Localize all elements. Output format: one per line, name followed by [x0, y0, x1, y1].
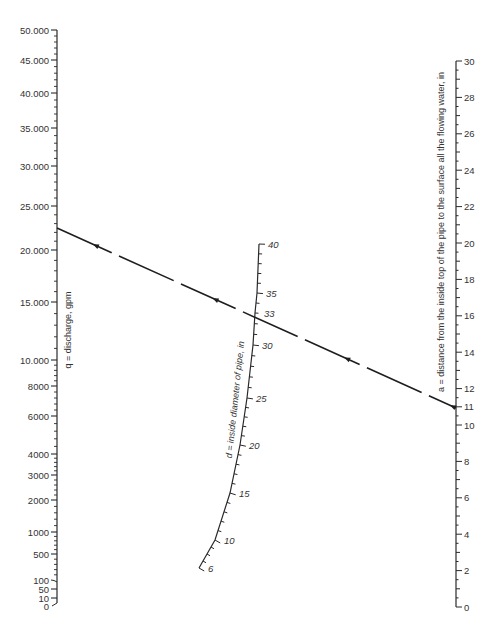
- a-tick-label: 14: [464, 347, 475, 358]
- q-tick-label: 6000: [28, 411, 49, 422]
- d-tick: [211, 547, 214, 549]
- a-tick-label: 16: [464, 310, 475, 321]
- q-tick-label: 35.000: [20, 123, 49, 134]
- q-tick-label: 1000: [28, 527, 49, 538]
- nomograph-svg: 50.00045.00040.00035.00030.00025.00020.0…: [0, 0, 495, 627]
- d-tick: [224, 512, 227, 513]
- q-tick-label: 15.000: [20, 297, 49, 308]
- q-tick-label: 10.000: [20, 355, 49, 366]
- d-tick: [215, 540, 220, 543]
- a-tick-label: 26: [464, 128, 475, 139]
- a-tick-label: 22: [464, 201, 475, 212]
- a-tick-label: 18: [464, 274, 475, 285]
- d-tick: [244, 417, 247, 418]
- q-tick-label: 40.000: [20, 88, 49, 99]
- d-tick: [199, 568, 204, 571]
- d-tick: [207, 554, 210, 556]
- d-tick-label: 20: [248, 440, 260, 451]
- a-tick-label: 11: [464, 401, 474, 412]
- q-tick-label: 0: [44, 601, 49, 612]
- q-tick-label: 20.000: [20, 245, 49, 256]
- solution-dashed-line: [57, 228, 457, 410]
- q-axis-title: q = discharge, gpm: [63, 292, 73, 369]
- q-tick-label: 25.000: [20, 201, 49, 212]
- q-discharge-axis: 50.00045.00040.00035.00030.00025.00020.0…: [20, 25, 73, 612]
- d-tick: [221, 521, 224, 522]
- a-tick-label: 8: [464, 456, 469, 467]
- a-tick-label: 0: [464, 602, 469, 613]
- q-tick-label: 500: [33, 549, 49, 560]
- d-tick-label: 10: [224, 535, 235, 546]
- q-tick-label: 4000: [28, 449, 49, 460]
- nomograph-chart: q = discharge, gpm d = inside diameter o…: [0, 0, 495, 627]
- d-tick: [246, 407, 249, 408]
- a-tick-label: 28: [464, 92, 475, 103]
- d-tick: [247, 398, 253, 399]
- q-tick-label: 3000: [28, 470, 49, 481]
- q-tick-label: 30.000: [20, 161, 49, 172]
- d-axis-title: d = inside diameter of pipe, in: [224, 341, 246, 459]
- a-axis-title: a = distance from the inside top of the …: [436, 72, 446, 392]
- q-major-tick: [52, 603, 57, 606]
- d-tick-label: 15: [239, 488, 250, 499]
- a-tick-label: 20: [464, 238, 475, 249]
- a-tick-label: 24: [464, 165, 475, 176]
- a-tick-label: 30: [464, 56, 475, 67]
- d-tick: [227, 502, 230, 503]
- q-tick-label: 45.000: [20, 55, 49, 66]
- d-tick: [232, 483, 235, 484]
- d-tick-label: 30: [262, 340, 273, 351]
- d-diameter-axis: 40353330252015106d = inside diameter of …: [199, 239, 279, 574]
- d-tick-label: 25: [255, 393, 267, 404]
- d-tick: [203, 561, 206, 563]
- d-tick-label: 35: [266, 288, 277, 299]
- d-tick: [238, 455, 241, 456]
- q-major-tick: [51, 580, 57, 582]
- a-distance-axis: 30282624222018161412111086420a = distanc…: [436, 56, 475, 613]
- d-tick-label: 33: [264, 308, 275, 319]
- d-tick: [243, 426, 246, 427]
- a-tick-label: 4: [464, 529, 469, 540]
- d-tick: [230, 493, 236, 495]
- d-tick: [241, 436, 244, 437]
- q-tick-label: 2000: [28, 495, 49, 506]
- d-tick: [236, 464, 239, 465]
- d-tick: [257, 293, 263, 294]
- d-tick: [234, 474, 237, 475]
- d-tick: [253, 345, 259, 346]
- q-tick-label: 8000: [28, 381, 49, 392]
- a-tick-label: 2: [464, 565, 469, 576]
- d-tick: [218, 531, 221, 532]
- d-tick: [240, 445, 246, 446]
- d-tick-label: 40: [268, 239, 279, 250]
- a-tick-label: 12: [464, 383, 475, 394]
- a-tick-label: 6: [464, 492, 469, 503]
- d-tick-label: 6: [208, 563, 214, 574]
- a-tick-label: 10: [464, 420, 475, 431]
- dashed-solution-line: [57, 228, 456, 408]
- q-tick-label: 50.000: [20, 25, 49, 36]
